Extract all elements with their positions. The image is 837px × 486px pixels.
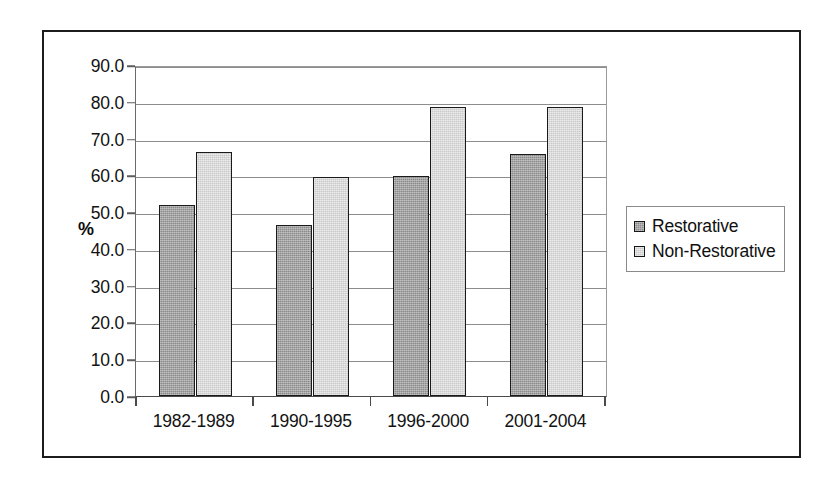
bar (313, 177, 349, 396)
y-axis-tick-marks (127, 66, 135, 397)
legend-label: Non-Restorative (652, 241, 775, 262)
y-axis-tick-label: 20.0 (66, 313, 124, 334)
y-axis-tick-mark (127, 212, 135, 214)
y-axis-tick-label: 10.0 (66, 350, 124, 371)
y-axis-tick-mark (127, 359, 135, 361)
chart-legend: RestorativeNon-Restorative (626, 206, 785, 272)
y-axis-tick-label: 40.0 (66, 239, 124, 260)
y-axis-tick-mark (127, 65, 135, 67)
y-axis-tick-label: 70.0 (66, 129, 124, 150)
bar-group (371, 67, 488, 396)
y-axis-tick-label: 50.0 (66, 203, 124, 224)
x-axis-tick-mark (252, 397, 254, 406)
bar-chart-figure: 0.010.020.030.040.050.060.070.080.090.0 … (0, 0, 837, 486)
bar (547, 107, 583, 396)
legend-item[interactable]: Non-Restorative (634, 239, 775, 264)
y-axis-tick-label: 60.0 (66, 166, 124, 187)
y-axis-tick-mark (127, 176, 135, 178)
y-axis-title: % (78, 219, 94, 240)
bar-group (254, 67, 371, 396)
y-axis-tick-mark (127, 139, 135, 141)
bar (393, 176, 429, 396)
x-axis-tick-label: 1990-1995 (270, 411, 352, 432)
x-axis-tick-label: 1982-1989 (153, 411, 235, 432)
bar (159, 205, 195, 396)
y-axis-tick-label: 30.0 (66, 276, 124, 297)
y-axis-tick-label: 90.0 (66, 56, 124, 77)
legend-swatch-icon (634, 221, 645, 232)
y-axis-tick-label: 0.0 (66, 387, 124, 408)
x-axis-tick-label: 2001-2004 (504, 411, 586, 432)
x-axis-tick-marks (135, 397, 607, 406)
bar (196, 152, 232, 396)
x-axis-tick-mark (370, 397, 372, 406)
y-axis-tick-mark (127, 102, 135, 104)
bar-group (137, 67, 254, 396)
y-axis-tick-labels: 0.010.020.030.040.050.060.070.080.090.0 (66, 66, 124, 397)
legend-item[interactable]: Restorative (634, 214, 775, 239)
bar (510, 154, 546, 396)
bar (430, 107, 466, 396)
x-axis-tick-mark (604, 397, 606, 406)
bar (276, 225, 312, 396)
y-axis-tick-mark (127, 286, 135, 288)
x-axis-tick-mark (487, 397, 489, 406)
legend-swatch-icon (634, 246, 645, 257)
y-axis-tick-mark (127, 249, 135, 251)
bar-group (488, 67, 605, 396)
y-axis-tick-mark (127, 396, 135, 398)
bars-layer (137, 67, 606, 396)
y-axis-tick-label: 80.0 (66, 92, 124, 113)
y-axis-tick-mark (127, 323, 135, 325)
x-axis-tick-label: 1996-2000 (387, 411, 469, 432)
x-axis-tick-labels: 1982-19891990-19951996-20002001-2004 (135, 411, 607, 437)
x-axis-tick-mark (135, 397, 137, 406)
legend-label: Restorative (652, 216, 738, 237)
